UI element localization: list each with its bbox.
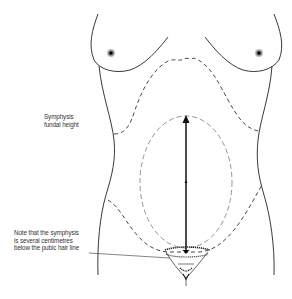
fundal-height-label-line-1: Symphysis [44,113,79,121]
note-line-1: Note that the symphysis [14,229,79,237]
note-line-3: below the pubic hair line [14,244,79,252]
right-breast-outline [205,14,282,72]
fundal-height-label: Symphysis fundal height [44,113,79,128]
symphysis-note-label: Note that the symphysis is several centi… [14,229,79,252]
left-body-outline [98,66,115,275]
right-nipple-icon [255,49,263,57]
left-breast-outline [91,14,168,72]
arrow-mid-marker-icon [185,180,188,183]
right-body-outline [257,66,274,275]
fundal-height-label-line-2: fundal height [44,121,79,129]
arrow-base-marker-icon [183,250,190,254]
note-pointer-line [89,253,170,258]
pelvic-dashed-line [108,185,262,252]
pubic-hair-region [165,247,210,286]
note-line-2: is several centimetres [14,237,79,245]
torso-diagram [0,0,292,299]
left-nipple-icon [107,49,115,57]
